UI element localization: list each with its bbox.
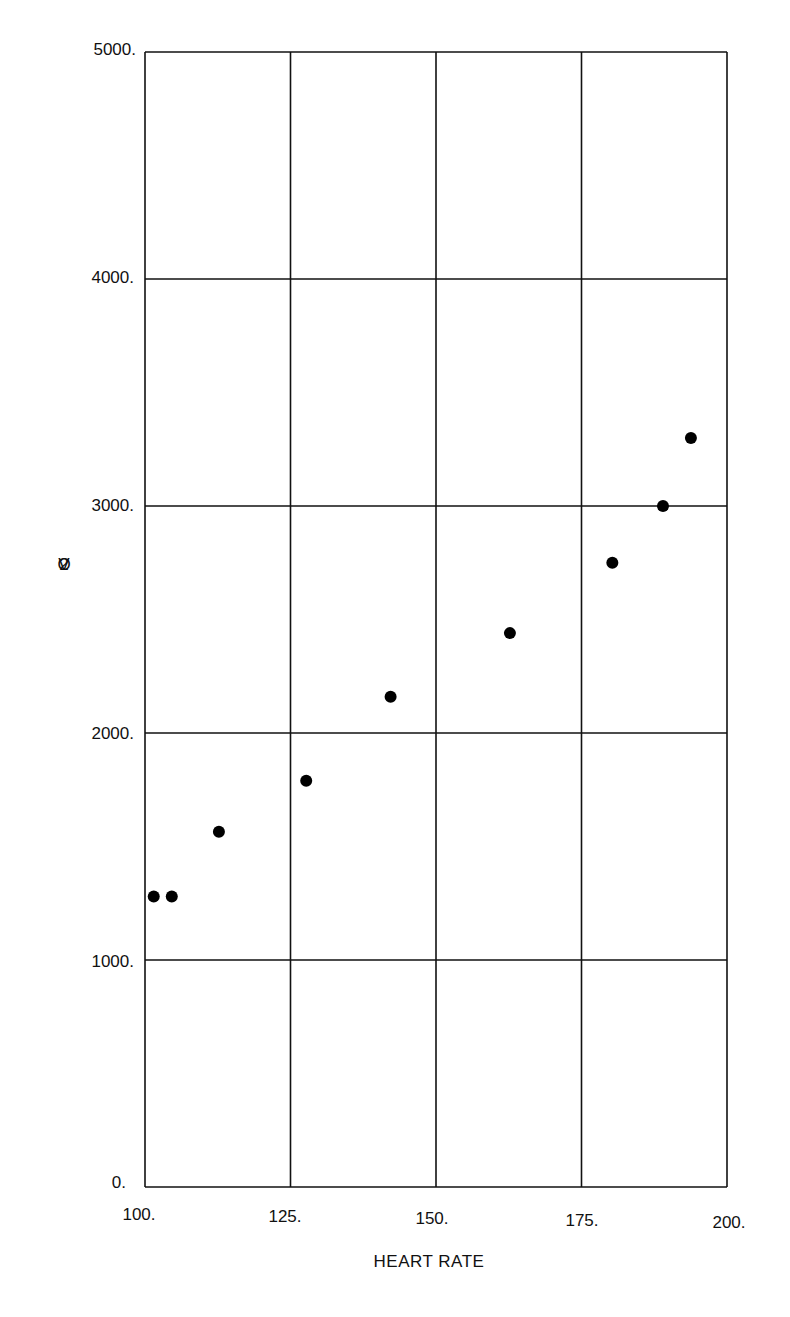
data-point	[300, 775, 312, 787]
data-point	[504, 627, 516, 639]
scatter-chart: 5000. 4000. 3000. 2000. 1000. 0. 100. 12…	[0, 0, 790, 1317]
y-tick-3000: 3000.	[64, 496, 134, 516]
data-point	[385, 691, 397, 703]
x-tick-175: 175.	[547, 1211, 617, 1231]
y-tick-0: 0.	[56, 1173, 126, 1193]
x-axis-label: HEART RATE	[279, 1252, 579, 1272]
data-point	[606, 557, 618, 569]
x-tick-100: 100.	[104, 1205, 174, 1225]
data-point	[166, 890, 178, 902]
data-point	[685, 432, 697, 444]
data-point	[148, 890, 160, 902]
y-tick-1000: 1000.	[64, 952, 134, 972]
x-tick-125: 125.	[250, 1207, 320, 1227]
y-tick-5000: 5000.	[66, 40, 136, 60]
plot-area	[0, 0, 790, 1317]
y-tick-4000: 4000.	[64, 268, 134, 288]
x-tick-150: 150.	[397, 1209, 467, 1229]
y-axis-label-char: 2	[54, 555, 74, 575]
x-tick-200: 200.	[694, 1213, 764, 1233]
data-point	[657, 500, 669, 512]
y-tick-2000: 2000.	[64, 724, 134, 744]
data-point	[213, 826, 225, 838]
